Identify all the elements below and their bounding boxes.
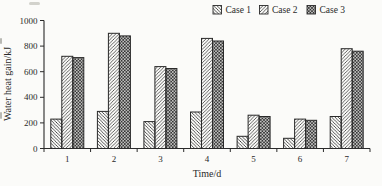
bar-case2-day7 (341, 49, 352, 149)
bar-case3-day1 (73, 58, 84, 149)
legend-item-case3: Case 3 (307, 5, 345, 15)
y-tick-label: 400 (24, 92, 38, 102)
bar-case2-day2 (108, 33, 119, 148)
legend-item-case1: Case 1 (213, 5, 251, 15)
bar-case3-day6 (306, 120, 317, 148)
bar-case2-day6 (295, 119, 306, 148)
bar-case2-day3 (155, 67, 166, 149)
legend-item-case2: Case 2 (260, 5, 298, 15)
bar-case1-day7 (330, 117, 341, 149)
chart-canvas: 020040060080010001234567 Case 1Case 2Cas… (0, 0, 382, 186)
x-tick-label: 2 (112, 154, 117, 164)
legend-swatch-icon (213, 6, 222, 15)
bar-chart-figure: 020040060080010001234567 Case 1Case 2Cas… (0, 0, 382, 186)
x-tick-label: 1 (65, 154, 70, 164)
bar-case3-day4 (213, 41, 224, 149)
y-tick-label: 600 (24, 67, 38, 77)
legend: Case 1Case 2Case 3 (213, 5, 345, 15)
x-tick-label: 7 (344, 154, 349, 164)
legend-swatch-icon (260, 6, 269, 15)
bar-case3-day7 (352, 51, 363, 148)
x-tick-label: 4 (205, 154, 210, 164)
x-tick-label: 3 (158, 154, 163, 164)
legend-label: Case 3 (320, 5, 346, 15)
y-axis-label: Water heat gain/kJ (2, 47, 13, 121)
y-tick-label: 800 (24, 41, 38, 51)
bar-case2-day5 (248, 115, 259, 148)
y-tick-label: 1000 (20, 16, 39, 26)
bar-case3-day3 (166, 69, 177, 149)
bar-case1-day4 (191, 112, 202, 149)
y-tick-label: 200 (24, 118, 38, 128)
bar-case3-day2 (119, 36, 130, 149)
bar-case1-day5 (237, 136, 248, 148)
x-axis-label: Time/d (193, 168, 222, 179)
bar-case1-day3 (144, 122, 155, 149)
legend-label: Case 2 (272, 5, 298, 15)
y-tick-label: 0 (33, 144, 38, 154)
bar-case1-day1 (51, 119, 62, 148)
bar-case2-day4 (202, 38, 213, 148)
bar-case3-day5 (259, 117, 270, 149)
x-tick-label: 6 (298, 154, 303, 164)
bars-layer (51, 33, 363, 148)
legend-swatch-icon (307, 6, 316, 15)
bar-case1-day2 (97, 111, 108, 148)
bar-case1-day6 (284, 138, 295, 148)
bar-case2-day1 (62, 56, 73, 148)
x-tick-label: 5 (251, 154, 256, 164)
legend-label: Case 1 (226, 5, 252, 15)
